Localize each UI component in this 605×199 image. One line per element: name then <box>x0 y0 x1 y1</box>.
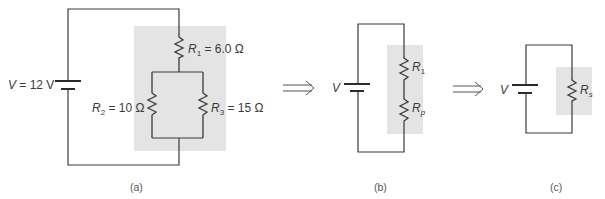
battery-icon <box>344 84 370 91</box>
rp-label: Rp <box>412 101 426 117</box>
caption-b: (b) <box>374 181 387 193</box>
panel-b: V R1 Rp (b) <box>332 24 426 193</box>
r1-label: R1 = 6.0 Ω <box>188 42 244 58</box>
r3-label: R3 = 15 Ω <box>211 101 263 117</box>
caption-a: (a) <box>130 181 143 193</box>
battery-label: V = 12 V <box>8 78 54 92</box>
battery-label: V <box>332 81 341 95</box>
panel-a: V = 12 V R1 = 6.0 Ω R2 = 10 Ω R3 = 15 Ω … <box>8 9 263 193</box>
panel-c: V Rs (c) <box>500 45 593 193</box>
implies-arrow-icon <box>453 82 483 96</box>
battery-icon <box>512 85 538 93</box>
battery-icon <box>55 81 81 89</box>
r1-label: R1 <box>412 60 426 76</box>
caption-c: (c) <box>550 181 562 193</box>
implies-arrow-icon <box>283 81 314 95</box>
circuit-reduction-figure: V = 12 V R1 = 6.0 Ω R2 = 10 Ω R3 = 15 Ω … <box>0 0 605 199</box>
r2-label: R2 = 10 Ω <box>92 101 144 117</box>
battery-label: V <box>500 83 509 97</box>
